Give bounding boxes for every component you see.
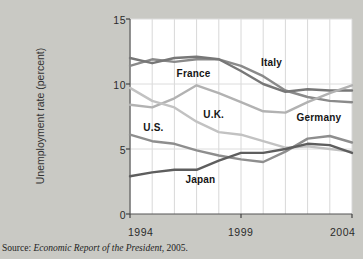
x-tick-2004: 2004 (330, 226, 355, 238)
x-tick-1994: 1994 (128, 226, 153, 238)
y-axis-label: Unemployment rate (percent) (34, 31, 46, 201)
x-tick-1999: 1999 (228, 226, 253, 238)
figure-container: Unemployment rate (percent) 15 10 5 0 19… (0, 0, 363, 259)
series-label-uk: U.K. (203, 109, 224, 120)
series-label-us: U.S. (143, 122, 163, 133)
series-label-france: France (177, 68, 211, 79)
series-label-japan: Japan (186, 174, 216, 185)
source-note: Source: Economic Report of the President… (2, 243, 188, 253)
y-tick-15: 15 (104, 14, 126, 26)
y-tick-5: 5 (104, 144, 126, 156)
source-year: 2005. (167, 243, 188, 253)
y-tick-0: 0 (104, 209, 126, 221)
y-axis-ticks: 15 10 5 0 (100, 0, 126, 259)
y-tick-10: 10 (104, 79, 126, 91)
chart-plot-area (0, 0, 363, 259)
series-label-italy: Italy (261, 57, 282, 68)
source-title: Economic Report of the President, (33, 243, 164, 253)
source-prefix: Source: (2, 243, 31, 253)
series-label-germany: Germany (297, 112, 342, 123)
